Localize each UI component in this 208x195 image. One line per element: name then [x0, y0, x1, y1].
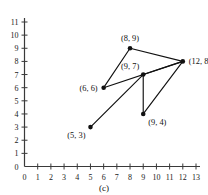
x-tick-label: 4: [75, 173, 79, 182]
point-coordinate-label: (8, 9): [121, 34, 139, 43]
y-tick-label: 6: [15, 84, 19, 93]
graph-vertex: [128, 46, 133, 51]
x-tick-label: 12: [179, 173, 187, 182]
y-tick-label: 2: [15, 136, 19, 145]
graph-vertex: [141, 112, 146, 117]
x-tick-label: 13: [192, 173, 200, 182]
scatter-plot: 01234567891011 012345678910111213 (5, 3)…: [0, 0, 208, 195]
x-tick-label: 8: [128, 173, 132, 182]
y-tick-label: 3: [15, 123, 19, 132]
graph-vertex: [181, 59, 186, 64]
x-tick-label: 9: [141, 173, 145, 182]
y-tick-label: 10: [11, 31, 19, 40]
point-coordinate-label: (5, 3): [67, 131, 85, 140]
y-tick-label: 4: [15, 110, 19, 119]
point-coordinate-label: (9, 7): [121, 62, 139, 71]
graph-vertex: [141, 72, 146, 77]
x-tick-label: 11: [166, 173, 174, 182]
y-tick-label: 11: [11, 18, 19, 27]
graph-edge: [90, 75, 143, 128]
y-tick-label: 8: [15, 57, 19, 66]
x-tick-label: 5: [88, 173, 92, 182]
graph-edge: [143, 61, 183, 114]
graph-edge: [130, 48, 183, 61]
axes-group: [25, 18, 201, 167]
figure-panel: 01234567891011 012345678910111213 (5, 3)…: [0, 0, 208, 195]
x-tick-label: 7: [115, 173, 119, 182]
point-coordinate-label: (6, 6): [80, 84, 98, 93]
graph-vertex: [88, 125, 93, 130]
x-tick-label: 3: [62, 173, 66, 182]
figure-caption: (c): [99, 183, 109, 193]
x-tick-label: 1: [36, 173, 40, 182]
y-tick-label: 5: [15, 97, 19, 106]
point-coordinate-label: (12, 8): [189, 57, 208, 66]
point-coordinate-label: (9, 4): [148, 118, 166, 127]
x-tick-label: 0: [23, 173, 27, 182]
y-tick-label: 7: [15, 71, 19, 80]
y-tick-label: 1: [15, 149, 19, 158]
x-tick-label: 6: [102, 173, 106, 182]
x-tick-label: 2: [49, 173, 53, 182]
y-tick-label: 0: [15, 163, 19, 172]
x-tick-label: 10: [152, 173, 160, 182]
y-tick-label: 9: [15, 44, 19, 53]
graph-edge: [143, 61, 183, 74]
graph-vertex: [101, 85, 106, 90]
